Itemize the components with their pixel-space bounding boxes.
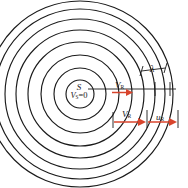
wavelength-label: λ bbox=[150, 64, 154, 74]
source-label: S VS=0 bbox=[62, 83, 96, 100]
receiver-velocity-label-top: VR bbox=[115, 81, 124, 91]
wave-speed-arrow-head bbox=[169, 118, 177, 126]
source-velocity-label: VS=0 bbox=[62, 91, 96, 100]
arrow-bottom-head bbox=[138, 118, 146, 126]
doppler-wavefront-figure: S VS=0 VR VR uR λ bbox=[0, 0, 188, 188]
wave-speed-label: uR bbox=[156, 113, 164, 123]
receiver-velocity-label-bottom: VR bbox=[122, 110, 131, 120]
